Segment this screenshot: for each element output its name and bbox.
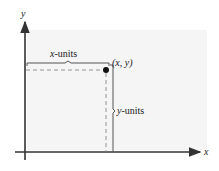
coordinate-diagram: y x x-units y-units (x, y) (0, 0, 219, 171)
x-units-label: x-units (49, 48, 77, 59)
point-label: (x, y) (112, 57, 133, 69)
x-axis-label: x (203, 146, 209, 157)
y-units-label: y-units (116, 105, 144, 116)
point-marker (103, 67, 109, 73)
y-axis-label: y (20, 8, 26, 19)
